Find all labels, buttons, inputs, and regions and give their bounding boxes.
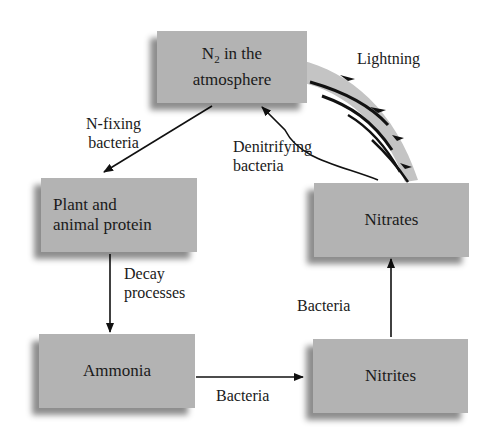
label-bacteria-bottom: Bacteria — [216, 386, 269, 405]
label-bacteria-right: Bacteria — [297, 296, 350, 315]
atmosphere-line2: atmosphere — [193, 70, 271, 90]
label-denitrifying: Denitrifying bacteria — [233, 137, 312, 175]
node-atmosphere: N2 in the atmosphere — [157, 31, 307, 103]
lightning-icon — [300, 60, 418, 182]
label-decay: Decay processes — [124, 264, 185, 302]
atmosphere-line1: N2 in the — [202, 44, 262, 69]
node-plant-animal-protein: Plant and animal protein — [41, 178, 197, 252]
node-nitrites: Nitrites — [313, 339, 468, 413]
node-ammonia: Ammonia — [39, 334, 195, 408]
node-nitrates: Nitrates — [314, 183, 469, 257]
label-lightning: Lightning — [357, 49, 420, 68]
label-n-fixing: N-fixing bacteria — [86, 114, 141, 152]
